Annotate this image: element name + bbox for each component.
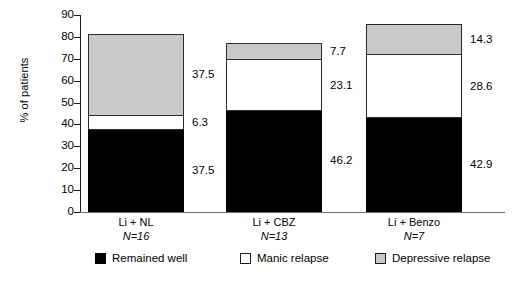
y-axis-tick	[74, 103, 80, 104]
bar-segment-remained-well[interactable]	[226, 111, 322, 212]
y-axis-tick	[74, 15, 80, 16]
legend-item-manic-relapse[interactable]: Manic relapse	[240, 252, 329, 264]
y-axis-tick-label: 60	[50, 75, 74, 87]
x-axis-category-label: Li + CBZN=13	[204, 216, 344, 243]
category-sample-size: N=13	[204, 230, 344, 244]
bar-segment-depressive-relapse[interactable]	[88, 34, 184, 116]
legend-label: Manic relapse	[257, 252, 329, 264]
category-sample-size: N=7	[344, 230, 484, 244]
segment-value-label: 42.9	[470, 159, 492, 171]
y-axis-tick	[74, 59, 80, 60]
y-axis-tick	[74, 146, 80, 147]
y-axis-tick-label: 50	[50, 97, 74, 109]
y-axis-tick-label: 70	[50, 53, 74, 65]
bar-li-benzo[interactable]	[366, 24, 462, 212]
legend-label: Remained well	[112, 252, 187, 264]
segment-value-label: 23.1	[330, 80, 352, 92]
legend-label: Depressive relapse	[392, 252, 490, 264]
segment-value-label: 37.5	[192, 165, 214, 177]
y-axis-tick	[74, 190, 80, 191]
bar-segment-manic-relapse[interactable]	[226, 60, 322, 111]
segment-value-label: 46.2	[330, 156, 352, 168]
bar-li-nl[interactable]	[88, 34, 184, 212]
legend-swatch-white-icon	[240, 253, 251, 264]
y-axis-tick	[74, 37, 80, 38]
bar-segment-remained-well[interactable]	[88, 130, 184, 212]
segment-value-label: 6.3	[192, 117, 208, 129]
legend-swatch-gray-icon	[375, 253, 386, 264]
y-axis-tick-label: 10	[50, 184, 74, 196]
y-axis-tick-label: 80	[50, 31, 74, 43]
y-axis-tick-label: 90	[50, 9, 74, 21]
bar-segment-depressive-relapse[interactable]	[366, 24, 462, 55]
y-axis-tick	[74, 168, 80, 169]
category-name: Li + CBZ	[204, 216, 344, 230]
y-axis-tick-label: 30	[50, 141, 74, 153]
segment-value-label: 7.7	[330, 46, 346, 58]
bar-segment-manic-relapse[interactable]	[88, 116, 184, 130]
category-name: Li + NL	[66, 216, 206, 230]
segment-value-label: 37.5	[192, 69, 214, 81]
chart-legend: Remained well Manic relapse Depressive r…	[80, 252, 500, 272]
legend-item-depressive-relapse[interactable]: Depressive relapse	[375, 252, 490, 264]
x-axis-line	[80, 212, 505, 213]
bar-segment-manic-relapse[interactable]	[366, 55, 462, 118]
stacked-bar-chart: % of patients 9080706050403020100 37.56.…	[0, 0, 516, 284]
y-axis-title: % of patients	[18, 30, 30, 150]
y-axis-tick-label: 40	[50, 119, 74, 131]
y-axis-tick-label: 20	[50, 162, 74, 174]
y-axis-tick	[74, 124, 80, 125]
legend-swatch-black-icon	[95, 253, 106, 264]
legend-item-remained-well[interactable]: Remained well	[95, 252, 187, 264]
bar-li-cbz[interactable]	[226, 43, 322, 212]
category-sample-size: N=16	[66, 230, 206, 244]
category-name: Li + Benzo	[344, 216, 484, 230]
y-axis-line	[80, 15, 81, 212]
bar-segment-depressive-relapse[interactable]	[226, 43, 322, 60]
y-axis-tick	[74, 81, 80, 82]
x-axis-category-label: Li + NLN=16	[66, 216, 206, 243]
segment-value-label: 28.6	[470, 81, 492, 93]
bar-segment-remained-well[interactable]	[366, 118, 462, 212]
segment-value-label: 14.3	[470, 34, 492, 46]
x-axis-category-label: Li + BenzoN=7	[344, 216, 484, 243]
